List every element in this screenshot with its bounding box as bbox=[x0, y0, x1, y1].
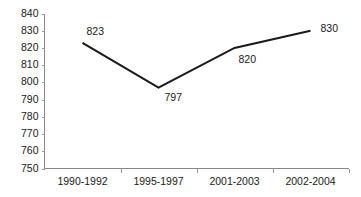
data-point-label: 820 bbox=[239, 53, 257, 65]
x-axis-tick-label: 2002-2004 bbox=[285, 175, 335, 187]
y-axis-tick-label: 820 bbox=[21, 41, 39, 53]
y-axis-tick-label: 770 bbox=[21, 127, 39, 139]
x-axis-tick-label: 1990-1992 bbox=[57, 175, 107, 187]
chart-canvas: 840830820810800790780770760750 1990-1992… bbox=[0, 0, 361, 197]
x-axis-tick-marks bbox=[122, 169, 350, 173]
y-axis-tick-labels: 840830820810800790780770760750 bbox=[21, 7, 39, 174]
data-point-labels: 823797820830 bbox=[87, 22, 339, 103]
y-axis-tick-label: 750 bbox=[21, 162, 39, 174]
y-axis-tick-label: 810 bbox=[21, 58, 39, 70]
y-axis-tick-label: 830 bbox=[21, 24, 39, 36]
y-axis-tick-label: 760 bbox=[21, 144, 39, 156]
data-point-label: 830 bbox=[321, 22, 339, 34]
y-axis-tick-label: 800 bbox=[21, 75, 39, 87]
y-axis-tick-label: 790 bbox=[21, 93, 39, 105]
data-point-label: 797 bbox=[165, 91, 183, 103]
x-axis-tick-labels: 1990-19921995-19972001-20032002-2004 bbox=[57, 175, 335, 187]
y-axis-tick-label: 780 bbox=[21, 110, 39, 122]
data-point-label: 823 bbox=[87, 25, 105, 37]
x-axis-tick-label: 2001-2003 bbox=[209, 175, 259, 187]
y-axis-tick-label: 840 bbox=[21, 7, 39, 19]
series-line-path bbox=[83, 31, 311, 88]
x-axis-tick-label: 1995-1997 bbox=[133, 175, 183, 187]
line-chart: 840830820810800790780770760750 1990-1992… bbox=[0, 0, 361, 197]
